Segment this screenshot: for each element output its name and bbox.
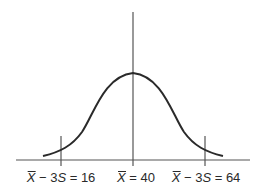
value-plus-3s: 64 (226, 170, 240, 185)
x-bar-symbol: X (117, 170, 126, 185)
value-mean: 40 (141, 170, 155, 185)
value-minus-3s: 16 (81, 170, 95, 185)
x-bar-symbol: X (27, 170, 36, 185)
normal-curve-diagram (0, 0, 264, 195)
label-mean: X = 40 (117, 170, 155, 185)
label-plus-3s: X − 3S = 64 (172, 170, 241, 185)
x-bar-symbol: X (172, 170, 181, 185)
label-minus-3s: X − 3S = 16 (27, 170, 96, 185)
